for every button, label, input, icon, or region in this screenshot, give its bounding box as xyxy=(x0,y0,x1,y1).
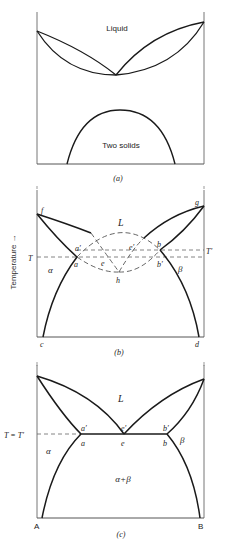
metastable-solidus-right xyxy=(119,250,160,272)
label-a: a xyxy=(74,260,78,269)
panel-a-caption: (a) xyxy=(113,174,123,183)
label-L: L xyxy=(117,217,124,228)
panel-c: L T = T′ a′ a e′ e b′ b α β α+β A B (c) xyxy=(4,365,204,539)
panel-a-liquidus-left xyxy=(37,31,116,75)
label-b-prime: b′ xyxy=(157,260,163,269)
label-e: e xyxy=(121,439,125,448)
label-b: b xyxy=(163,439,167,448)
phase-diagram-figure: Liquid Two solids (a) Temperature → f g … xyxy=(0,0,227,545)
panel-c-solidus-left xyxy=(37,376,81,434)
metastable-liquidus-left xyxy=(91,233,119,272)
label-A: A xyxy=(34,522,40,531)
label-L: L xyxy=(117,393,124,404)
label-alpha: α xyxy=(48,265,53,275)
panel-a-solidus-left xyxy=(37,31,116,75)
panel-c-caption: (c) xyxy=(117,530,126,539)
panel-c-solvus-right xyxy=(167,434,200,518)
panel-b-caption: (b) xyxy=(114,348,124,357)
label-c: c xyxy=(40,340,44,349)
label-a-prime: a′ xyxy=(81,424,87,433)
panel-a-liquidus-right xyxy=(116,22,204,75)
metastable-solvus-dome xyxy=(77,233,160,257)
panel-a: Liquid Two solids (a) xyxy=(37,12,204,183)
label-e-prime: e′ xyxy=(121,424,127,433)
label-beta: β xyxy=(179,435,185,445)
label-T: T xyxy=(28,254,33,263)
label-a: a xyxy=(81,439,85,448)
panel-a-solidus-right xyxy=(116,22,204,75)
label-beta: β xyxy=(177,264,183,274)
label-alpha-beta: α+β xyxy=(115,474,131,484)
label-alpha: α xyxy=(46,446,51,456)
label-a-prime: a′ xyxy=(75,244,81,253)
temperature-axis-label: Temperature → xyxy=(9,234,18,289)
panel-a-miscibility-dome xyxy=(67,110,175,164)
metastable-solidus-left xyxy=(77,257,119,272)
label-g: g xyxy=(195,198,199,207)
panel-a-two-solids-label: Two solids xyxy=(102,141,139,150)
label-e: e xyxy=(101,259,105,268)
label-T-eq: T = T′ xyxy=(4,431,24,440)
label-d: d xyxy=(195,340,200,349)
label-e-prime: e′ xyxy=(129,243,135,252)
panel-b-liquidus-right xyxy=(144,206,204,238)
label-b: b xyxy=(157,240,161,249)
label-f: f xyxy=(41,206,45,215)
panel-b: Temperature → f g L T T′ α β a′ a e e′ b… xyxy=(9,190,212,357)
label-B: B xyxy=(198,522,203,531)
label-b-prime: b′ xyxy=(163,424,169,433)
label-T-prime: T′ xyxy=(206,247,212,256)
panel-a-liquid-label: Liquid xyxy=(106,24,127,33)
label-h: h xyxy=(116,276,120,285)
